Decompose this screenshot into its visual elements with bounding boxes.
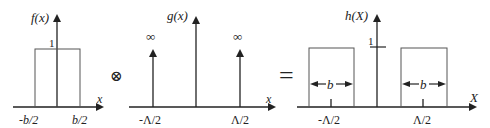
h-ylabel: h(X) [345,8,368,23]
h-left-tick: -Λ/2 [318,113,340,127]
g-xlabel: x [265,92,272,106]
panel-f: f(x) x 1 -b/2 b/2 [13,10,103,127]
g-right-infinity: ∞ [233,29,242,44]
h-left-width-label: b [327,77,334,92]
convolve-operator: ⊗ [110,68,123,84]
g-ylabel: g(x) [167,8,188,23]
g-left-tick: -Λ/2 [139,113,161,127]
g-right-tick: Λ/2 [231,113,249,127]
h-height-label: 1 [368,35,374,47]
f-right-tick: b/2 [72,113,87,127]
f-height-label: 1 [49,37,55,49]
h-right-width-label: b [420,77,427,92]
h-right-tick: Λ/2 [413,113,431,127]
f-xlabel: x [96,92,103,106]
h-xlabel: X [469,90,479,105]
panel-g: g(x) x ∞ ∞ -Λ/2 Λ/2 [129,8,274,127]
equals-operator: = [279,61,294,90]
f-ylabel: f(x) [31,10,49,25]
panel-h: b b h(X) X 1 -Λ/2 Λ/2 [297,8,479,127]
convolution-diagram: f(x) x 1 -b/2 b/2 ⊗ g(x) x ∞ ∞ -Λ/2 Λ/2 … [0,0,490,128]
f-left-tick: -b/2 [19,113,38,127]
g-left-infinity: ∞ [146,29,155,44]
